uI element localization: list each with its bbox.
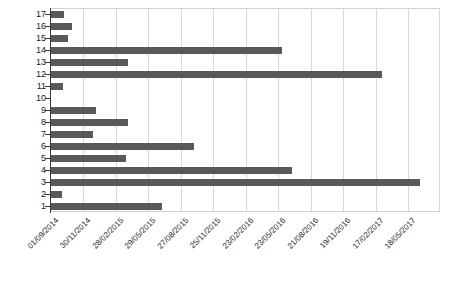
y-axis-label: 9: [22, 105, 46, 115]
bar: [51, 23, 72, 30]
bar: [51, 35, 68, 42]
y-axis-label: 8: [22, 117, 46, 127]
y-axis-label: 7: [22, 129, 46, 139]
y-axis-label: 5: [22, 153, 46, 163]
y-axis-label: 17: [22, 9, 46, 19]
y-axis-label: 4: [22, 165, 46, 175]
y-axis-label: 15: [22, 33, 46, 43]
bar: [51, 47, 282, 54]
y-axis-label: 3: [22, 177, 46, 187]
bar: [51, 191, 62, 198]
y-axis-label: 14: [22, 45, 46, 55]
bar: [51, 179, 420, 186]
y-axis-label: 2: [22, 189, 46, 199]
y-axis-label: 10: [22, 93, 46, 103]
bar: [51, 71, 382, 78]
bar: [51, 167, 292, 174]
bar: [51, 11, 64, 18]
gridline: [439, 9, 440, 211]
y-axis-label: 11: [22, 81, 46, 91]
y-axis-label: 13: [22, 57, 46, 67]
bar: [51, 59, 128, 66]
bar: [51, 83, 63, 90]
gantt-bar-chart: 1716151413121110987654321 01/09/201430/1…: [0, 0, 459, 285]
bar: [51, 119, 128, 126]
bar: [51, 143, 194, 150]
y-axis-label: 6: [22, 141, 46, 151]
bar: [51, 107, 96, 114]
y-axis-label: 16: [22, 21, 46, 31]
bar: [51, 203, 162, 210]
y-axis-label: 1: [22, 201, 46, 211]
bar: [51, 155, 126, 162]
y-axis-label: 12: [22, 69, 46, 79]
bar: [51, 131, 93, 138]
